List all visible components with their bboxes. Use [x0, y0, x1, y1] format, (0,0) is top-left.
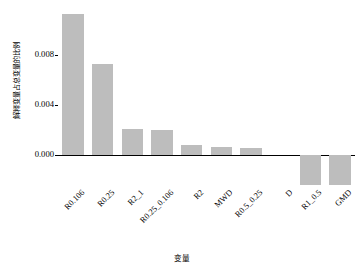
x-tick-label: R0.5_0.25: [233, 188, 264, 219]
x-axis-title: 变量: [0, 252, 363, 263]
bar: [122, 129, 143, 155]
plot-area: [58, 8, 355, 188]
x-tick-label: R0.25: [95, 188, 116, 209]
x-tick-label: R0.106: [63, 188, 87, 212]
bar: [92, 64, 113, 155]
bar: [151, 130, 172, 155]
bar: [240, 148, 261, 155]
y-tick-label: 0.004: [24, 99, 54, 109]
bar: [181, 145, 202, 155]
bar: [211, 147, 232, 156]
bar: [329, 155, 350, 185]
x-tick-label: R1_0.5: [300, 188, 324, 212]
x-tick-label: D: [283, 188, 294, 199]
x-tick-label: R2_1: [126, 188, 145, 207]
x-tick-label: GMD: [333, 188, 353, 208]
x-axis-ticks: R0.106R0.25R2_1R0.25_0.106R2MWDR0.5_0.25…: [58, 188, 355, 248]
bar: [300, 155, 321, 185]
x-tick-label: R2: [192, 188, 205, 201]
x-tick-label: MWD: [213, 188, 235, 210]
y-tick-label: 0.000: [24, 149, 54, 159]
y-tick-label: 0.008: [24, 49, 54, 59]
bar-chart: 解释变量占总变量的比例 0.0000.0040.008 R0.106R0.25R…: [0, 0, 363, 277]
bar: [62, 14, 83, 155]
y-axis-ticks: 0.0000.0040.008: [22, 0, 54, 277]
